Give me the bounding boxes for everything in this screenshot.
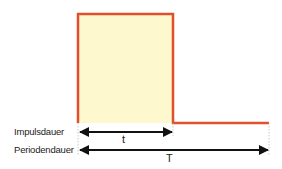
pulse-duration-label: Impulsdauer xyxy=(14,126,64,137)
period-symbol: T xyxy=(166,152,173,164)
pulse-symbol: t xyxy=(122,133,125,145)
pulse-area xyxy=(78,14,172,123)
period-duration-label: Periodendauer xyxy=(14,144,74,155)
